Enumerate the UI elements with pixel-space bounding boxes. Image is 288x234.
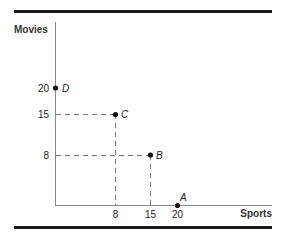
- x-tick-20: 20: [172, 209, 184, 220]
- point-b-label: B: [156, 150, 163, 161]
- point-b: [148, 152, 153, 157]
- x-tick-8: 8: [113, 209, 119, 220]
- point-c-label: C: [121, 109, 129, 120]
- x-tick-15: 15: [145, 209, 157, 220]
- point-a-label: A: [179, 192, 187, 203]
- point-c: [113, 112, 118, 117]
- point-d: [53, 85, 58, 90]
- top-rule: [14, 10, 272, 13]
- point-d-label: D: [62, 83, 69, 94]
- y-tick-20: 20: [38, 83, 50, 94]
- y-axis-title: Movies: [14, 24, 48, 35]
- guide-lines: [56, 114, 151, 205]
- y-tick-8: 8: [43, 150, 49, 161]
- y-tick-15: 15: [38, 109, 50, 120]
- x-axis-title: Sports: [240, 208, 272, 219]
- bottom-rule: [14, 226, 272, 229]
- point-a: [175, 203, 180, 208]
- chart-canvas: Movies Sports 20 15 8 8 15 20 D C B A: [0, 0, 288, 234]
